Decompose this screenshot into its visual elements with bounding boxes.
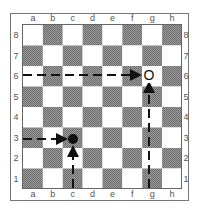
square-g1: [142, 169, 162, 190]
square-g7: [142, 46, 162, 67]
square-f2: [122, 148, 142, 169]
rank-label-7-right: 7: [183, 51, 188, 61]
square-e6: [103, 66, 123, 87]
square-h4: [162, 107, 182, 128]
square-d6: [83, 66, 103, 87]
board-squares: [23, 25, 182, 189]
square-g3: [142, 128, 162, 149]
file-label-h-bottom: h: [170, 189, 175, 199]
square-c8: [63, 25, 83, 46]
file-label-e-top: e: [110, 13, 115, 23]
square-b6: [43, 66, 63, 87]
square-g8: [142, 25, 162, 46]
square-e1: [103, 169, 123, 190]
rank-label-3-left: 3: [13, 133, 18, 143]
square-h6: [162, 66, 182, 87]
rank-label-1-left: 1: [13, 174, 18, 184]
square-d2: [83, 148, 103, 169]
square-e8: [103, 25, 123, 46]
file-label-c-bottom: c: [70, 189, 75, 199]
rank-label-7-left: 7: [13, 51, 18, 61]
square-c6: [63, 66, 83, 87]
square-d3: [83, 128, 103, 149]
square-a7: [23, 46, 43, 67]
rank-label-4-left: 4: [13, 112, 18, 122]
file-label-c-top: c: [70, 13, 75, 23]
square-b3: [43, 128, 63, 149]
square-d5: [83, 87, 103, 108]
square-a4: [23, 107, 43, 128]
square-b2: [43, 148, 63, 169]
rank-label-1-right: 1: [183, 174, 188, 184]
square-h2: [162, 148, 182, 169]
square-h3: [162, 128, 182, 149]
square-d1: [83, 169, 103, 190]
square-f8: [122, 25, 142, 46]
square-a2: [23, 148, 43, 169]
square-a6: [23, 66, 43, 87]
square-e3: [103, 128, 123, 149]
square-b1: [43, 169, 63, 190]
square-c5: [63, 87, 83, 108]
rank-label-5-right: 5: [183, 92, 188, 102]
rank-label-4-right: 4: [183, 112, 188, 122]
square-h1: [162, 169, 182, 190]
square-f7: [122, 46, 142, 67]
file-label-g-bottom: g: [150, 189, 155, 199]
square-e2: [103, 148, 123, 169]
square-e4: [103, 107, 123, 128]
rank-label-6-left: 6: [13, 71, 18, 81]
file-label-a-bottom: a: [30, 189, 35, 199]
square-e5: [103, 87, 123, 108]
chessboard-diagram: aabbccddeeffgghh8877665544332211 O: [0, 0, 209, 212]
square-f6: [122, 66, 142, 87]
square-d8: [83, 25, 103, 46]
file-label-d-bottom: d: [90, 189, 95, 199]
square-b4: [43, 107, 63, 128]
square-a1: [23, 169, 43, 190]
file-label-f-top: f: [131, 13, 134, 23]
square-f4: [122, 107, 142, 128]
square-f1: [122, 169, 142, 190]
file-label-b-bottom: b: [50, 189, 55, 199]
square-h7: [162, 46, 182, 67]
rank-label-8-left: 8: [13, 30, 18, 40]
square-a5: [23, 87, 43, 108]
hollow-circle-marker-g6: O: [144, 67, 155, 83]
square-a8: [23, 25, 43, 46]
file-label-b-top: b: [50, 13, 55, 23]
square-g4: [142, 107, 162, 128]
file-label-a-top: a: [30, 13, 35, 23]
file-label-e-bottom: e: [110, 189, 115, 199]
rank-label-2-left: 2: [13, 153, 18, 163]
square-g5: [142, 87, 162, 108]
rank-label-3-right: 3: [183, 133, 188, 143]
square-d7: [83, 46, 103, 67]
square-f5: [122, 87, 142, 108]
square-g2: [142, 148, 162, 169]
square-d4: [83, 107, 103, 128]
rank-label-5-left: 5: [13, 92, 18, 102]
square-e7: [103, 46, 123, 67]
square-c7: [63, 46, 83, 67]
file-label-h-top: h: [170, 13, 175, 23]
square-c4: [63, 107, 83, 128]
square-b7: [43, 46, 63, 67]
square-b5: [43, 87, 63, 108]
square-h8: [162, 25, 182, 46]
square-h5: [162, 87, 182, 108]
rank-label-6-right: 6: [183, 71, 188, 81]
square-a3: [23, 128, 43, 149]
square-b8: [43, 25, 63, 46]
file-label-d-top: d: [90, 13, 95, 23]
file-label-f-bottom: f: [131, 189, 134, 199]
rank-label-2-right: 2: [183, 153, 188, 163]
rank-label-8-right: 8: [183, 30, 188, 40]
file-label-g-top: g: [150, 13, 155, 23]
square-f3: [122, 128, 142, 149]
filled-circle-marker-c3: [68, 134, 78, 144]
